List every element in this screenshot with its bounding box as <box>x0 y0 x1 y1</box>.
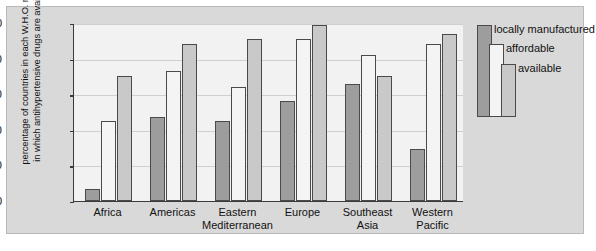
bar-group <box>410 24 457 201</box>
y-axis-tick-label: 100 <box>0 17 2 29</box>
bar-group <box>150 24 197 201</box>
y-axis-tick-label: 40 <box>0 124 2 136</box>
y-axis-tick <box>70 60 74 61</box>
x-axis-label: WesternPacific <box>378 206 488 231</box>
gridline <box>74 131 463 132</box>
bar <box>361 55 376 201</box>
y-axis-tick <box>70 24 74 25</box>
gridline <box>74 95 463 96</box>
bar <box>101 121 116 201</box>
bar <box>150 117 165 201</box>
y-axis-tick-label: 60 <box>0 88 2 100</box>
bar-group <box>280 24 327 201</box>
chart-legend: locally manufactured affordable availabl… <box>477 25 577 117</box>
chart-figure: percentage of countries in each W.H.O. r… <box>6 6 584 234</box>
y-axis-title-line-1: percentage of countries in each W.H.O. r… <box>19 0 30 165</box>
bar <box>117 76 132 201</box>
bar <box>296 39 311 201</box>
bar <box>85 189 100 201</box>
plot-area: 020406080100 <box>73 24 463 202</box>
bar <box>442 34 457 201</box>
bar <box>280 101 295 201</box>
bar <box>231 87 246 201</box>
y-axis-tick <box>70 95 74 96</box>
y-axis-tick-label: 80 <box>0 53 2 65</box>
legend-swatch-available <box>501 64 516 117</box>
y-axis-tick-label: 0 <box>0 195 2 207</box>
bar-group <box>345 24 392 201</box>
gridline <box>74 166 463 167</box>
y-axis-title: percentage of countries in each W.H.O. r… <box>19 0 42 171</box>
gridline <box>74 60 463 61</box>
y-axis-tick <box>70 166 74 167</box>
bar <box>215 121 230 201</box>
bar-group <box>215 24 262 201</box>
y-axis-tick <box>70 131 74 132</box>
x-axis-label-line: Pacific <box>378 219 488 232</box>
bar <box>410 149 425 201</box>
bar <box>166 71 181 201</box>
y-axis-tick-label: 20 <box>0 159 2 171</box>
legend-label-affordable: affordable <box>506 42 555 54</box>
legend-label-locally-manufactured: locally manufactured <box>494 23 595 35</box>
gridline <box>74 24 463 25</box>
y-axis-tick <box>70 202 74 203</box>
bar <box>182 44 197 201</box>
bar <box>247 39 262 201</box>
bar-group <box>85 24 132 201</box>
y-axis-title-line-2: in which antihypertensive drugs are avai… <box>31 0 43 171</box>
bar <box>345 84 360 201</box>
legend-label-available: available <box>518 62 561 74</box>
bar <box>426 44 441 201</box>
bar <box>312 25 327 201</box>
x-axis-label-line: Western <box>378 206 488 219</box>
x-axis-label-line: Mediterranean <box>183 219 293 232</box>
bar <box>377 76 392 201</box>
